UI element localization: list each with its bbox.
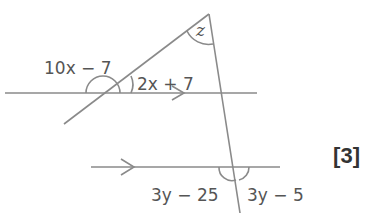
angle-arc-bottom-right [239,167,249,180]
right-transversal [209,14,240,213]
marks-label: [3] [333,143,360,169]
angle-label-bottom-right: 3y − 5 [247,185,304,205]
angle-label-apex: z [196,20,205,40]
angle-label-bottom-left: 3y − 25 [151,185,219,205]
angle-label-top-left: 10x − 7 [44,58,112,78]
angle-label-top-right: 2x + 7 [137,74,194,94]
angle-arc-top-right [131,76,133,93]
